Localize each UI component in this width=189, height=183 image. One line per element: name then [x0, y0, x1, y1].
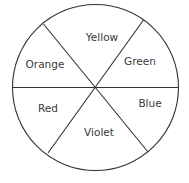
segment-label-blue: Blue [138, 97, 161, 109]
segment-label-orange: Orange [26, 58, 65, 70]
segment-label-violet: Violet [84, 126, 114, 138]
color-wheel-diagram: Yellow Green Blue Violet Red Orange [0, 0, 189, 183]
segment-label-red: Red [38, 102, 58, 114]
segment-label-yellow: Yellow [85, 31, 119, 43]
segment-label-green: Green [124, 55, 156, 67]
